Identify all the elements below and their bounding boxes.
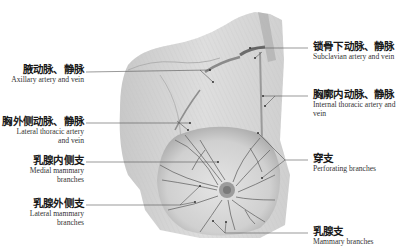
label-zh: 锁骨下动脉、静脉 <box>313 41 402 52</box>
label-en: Subclavian artery and vein <box>313 53 402 61</box>
label-en-line2: and vein <box>0 137 84 145</box>
label-en-line1: Lateral thoracic artery <box>0 128 84 136</box>
label-lateral-mammary-branches: 乳腺外侧支 Lateral mammary branches <box>0 198 84 227</box>
label-en-line2: branches <box>0 219 84 227</box>
label-zh: 胸外侧动脉、静脉 <box>0 116 84 127</box>
label-zh: 胸廓内动脉、静脉 <box>313 89 402 100</box>
label-en-line1: Internal thoracic artery and <box>313 101 402 109</box>
label-zh: 乳腺内侧支 <box>0 155 84 166</box>
label-en-line1: Medial mammary <box>0 167 84 175</box>
label-en-line2: branches <box>0 176 84 184</box>
label-en: Perforating branches <box>313 165 402 173</box>
label-en-line2: vein <box>313 110 402 118</box>
label-lateral-thoracic-artery-vein: 胸外侧动脉、静脉 Lateral thoracic artery and vei… <box>0 116 84 145</box>
label-subclavian-artery-vein: 锁骨下动脉、静脉 Subclavian artery and vein <box>313 41 402 61</box>
label-en: Axillary artery and vein <box>0 76 84 84</box>
label-zh: 穿支 <box>313 153 402 164</box>
label-zh: 乳腺支 <box>313 226 402 237</box>
label-zh: 腋动脉、静脉 <box>0 64 84 75</box>
label-internal-thoracic-artery-vein: 胸廓内动脉、静脉 Internal thoracic artery and ve… <box>313 89 402 118</box>
label-medial-mammary-branches: 乳腺内侧支 Medial mammary branches <box>0 155 84 184</box>
label-axillary-artery-vein: 腋动脉、静脉 Axillary artery and vein <box>0 64 84 84</box>
label-mammary-branches: 乳腺支 Mammary branches <box>313 226 402 246</box>
label-zh: 乳腺外侧支 <box>0 198 84 209</box>
label-en-line1: Lateral mammary <box>0 210 84 218</box>
label-en: Mammary branches <box>313 238 402 246</box>
label-perforating-branches: 穿支 Perforating branches <box>313 153 402 173</box>
